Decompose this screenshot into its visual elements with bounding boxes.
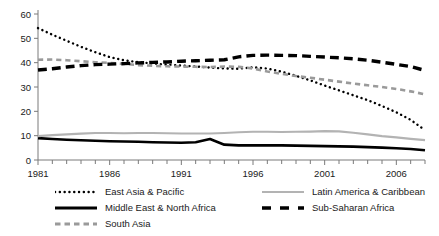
y-tick-label: 60 xyxy=(20,9,31,20)
y-tick-label: 40 xyxy=(20,57,31,68)
legend-item-label: Latin America & Caribbean xyxy=(312,186,425,198)
y-tick-label: 20 xyxy=(20,106,31,117)
legend-item-label: South Asia xyxy=(105,218,150,230)
x-tick-label: 1981 xyxy=(27,168,48,179)
legend-item-label: East Asia & Pacific xyxy=(105,186,184,198)
series-line-middle-east-north-africa xyxy=(38,138,425,150)
legend-column-left: East Asia & PacificMiddle East & North A… xyxy=(55,184,216,232)
legend-item[interactable]: South Asia xyxy=(55,216,216,232)
legend-line-icon xyxy=(262,202,304,214)
x-tick-label: 1986 xyxy=(99,168,120,179)
legend-line-icon xyxy=(55,218,97,230)
y-tick-label: 30 xyxy=(20,82,31,93)
legend-item-label: Middle East & North Africa xyxy=(105,202,216,214)
legend-swatch-line xyxy=(262,202,304,214)
x-tick-label: 2001 xyxy=(314,168,335,179)
chart-legend: East Asia & PacificMiddle East & North A… xyxy=(0,184,439,236)
y-tick-label: 10 xyxy=(20,130,31,141)
legend-item-label: Sub-Saharan Africa xyxy=(312,202,394,214)
chart-page: 0102030405060198119861991199620012006 Ea… xyxy=(0,0,439,236)
legend-column-right: Latin America & CaribbeanSub-Saharan Afr… xyxy=(262,184,425,216)
legend-swatch-line xyxy=(55,202,97,214)
x-tick-label: 1996 xyxy=(242,168,263,179)
legend-line-icon xyxy=(55,186,97,198)
x-tick-label: 1991 xyxy=(171,168,192,179)
legend-item[interactable]: Sub-Saharan Africa xyxy=(262,200,425,216)
series-line-latin-america-caribbean xyxy=(38,131,425,140)
y-tick-label: 0 xyxy=(26,155,31,166)
plot-area: 0102030405060198119861991199620012006 xyxy=(0,0,439,182)
legend-item[interactable]: Latin America & Caribbean xyxy=(262,184,425,200)
legend-line-icon xyxy=(55,202,97,214)
legend-swatch-line xyxy=(55,218,97,230)
legend-swatch-line xyxy=(55,186,97,198)
line-chart-svg: 0102030405060198119861991199620012006 xyxy=(0,0,439,182)
legend-line-icon xyxy=(262,186,304,198)
legend-item[interactable]: East Asia & Pacific xyxy=(55,184,216,200)
legend-item[interactable]: Middle East & North Africa xyxy=(55,200,216,216)
y-tick-label: 50 xyxy=(20,33,31,44)
series-line-east-asia-pacific xyxy=(38,28,425,130)
legend-swatch-line xyxy=(262,186,304,198)
x-tick-label: 2006 xyxy=(386,168,407,179)
